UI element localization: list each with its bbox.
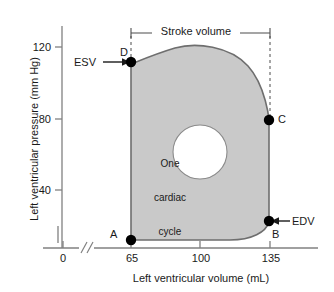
point-a-marker [126, 235, 136, 245]
cardiac-cycle-line-2: cardiac [140, 192, 200, 203]
pressure-volume-loop-figure: Left ventricular pressure (mm Hg) Left v… [0, 0, 334, 292]
point-b-label: B [272, 228, 279, 240]
point-d-label: D [120, 46, 128, 58]
esv-label: ESV [74, 56, 96, 68]
y-axis [55, 26, 62, 248]
edv-label: EDV [292, 215, 315, 227]
x-axis-title: Left ventricular volume (mL) [96, 272, 306, 284]
y-tick-label-40: 40 [33, 184, 51, 196]
cardiac-cycle-caption: One cardiac cycle [140, 136, 200, 259]
point-c-marker [264, 115, 274, 125]
cardiac-cycle-line-3: cycle [140, 226, 200, 237]
x-tick-label-0: 0 [56, 252, 70, 264]
y-axis-title-wrapper: Left ventricular pressure (mm Hg) [24, 44, 40, 234]
stroke-volume-label: Stroke volume [152, 25, 240, 37]
point-d-marker [126, 57, 136, 67]
y-tick-label-120: 120 [27, 41, 51, 53]
y-tick-label-80: 80 [33, 113, 51, 125]
point-a-label: A [110, 228, 117, 240]
x-axis-break-icon [79, 242, 94, 253]
point-c-label: C [278, 113, 286, 125]
cardiac-cycle-line-1: One [140, 158, 200, 169]
x-tick-label-135: 135 [261, 252, 281, 264]
y-axis-title: Left ventricular pressure (mm Hg) [28, 57, 40, 221]
x-tick-label-65: 65 [124, 252, 140, 264]
point-b-marker [264, 216, 274, 226]
